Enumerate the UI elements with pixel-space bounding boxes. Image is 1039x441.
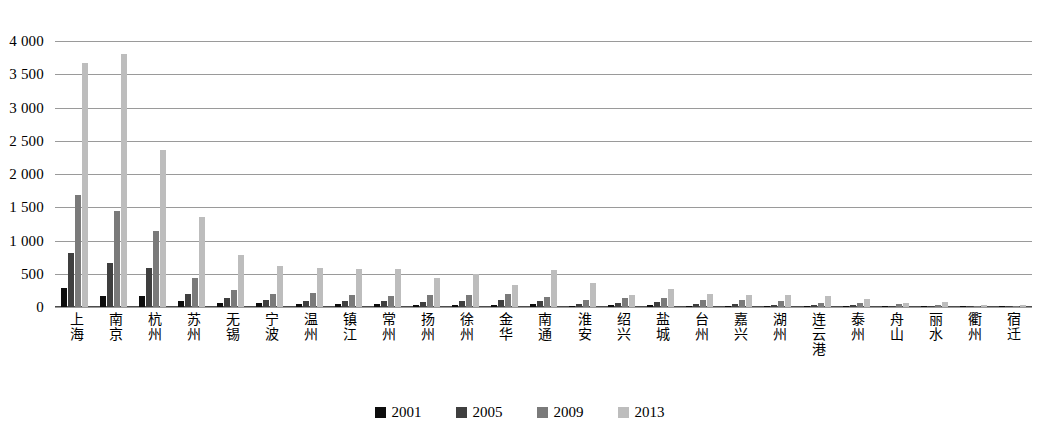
bar	[139, 296, 145, 307]
bar	[576, 304, 582, 307]
bar	[1013, 306, 1019, 307]
bar	[707, 294, 713, 307]
bar	[818, 303, 824, 307]
bar	[935, 305, 941, 307]
bar	[452, 305, 458, 307]
bar-group	[55, 41, 94, 307]
bar-group	[172, 41, 211, 307]
bar	[693, 304, 699, 307]
x-axis-labels: 上海南京杭州苏州无锡宁波温州镇江常州扬州徐州金华南通淮安绍兴盐城台州嘉兴湖州连云…	[55, 309, 1032, 395]
x-axis-tick: 宿迁	[993, 309, 1032, 395]
bar	[928, 306, 934, 307]
legend-item[interactable]: 2005	[456, 404, 503, 421]
bar	[199, 217, 205, 307]
y-axis-tick-label: 1 000	[9, 232, 44, 249]
y-axis-tick-label: 500	[21, 265, 44, 282]
x-axis-tick: 舟山	[876, 309, 915, 395]
x-axis-tick-label: 湖州	[771, 312, 785, 342]
bar	[725, 306, 731, 307]
bar	[75, 195, 81, 307]
legend-item[interactable]: 2013	[618, 404, 665, 421]
x-axis-tick: 盐城	[641, 309, 680, 395]
bar	[843, 306, 849, 307]
bar	[263, 300, 269, 307]
bar	[466, 295, 472, 307]
x-axis-tick: 常州	[368, 309, 407, 395]
bar	[420, 302, 426, 307]
gridline	[55, 307, 1032, 308]
y-axis-tick-label: 0	[36, 299, 44, 316]
bar	[622, 298, 628, 307]
x-axis-tick-label: 温州	[302, 312, 316, 342]
bar	[505, 294, 511, 307]
bar	[700, 300, 706, 307]
x-axis-tick-label: 台州	[693, 312, 707, 342]
bar	[746, 295, 752, 307]
bar	[661, 298, 667, 307]
bar	[647, 305, 653, 307]
bar	[771, 305, 777, 307]
bar-group	[250, 41, 289, 307]
bar	[100, 296, 106, 307]
x-axis-tick-label: 苏州	[185, 312, 199, 342]
x-axis-tick-label: 无锡	[224, 312, 238, 342]
chart-legend: 2001200520092013	[0, 404, 1039, 421]
bar	[217, 303, 223, 307]
x-axis-tick-label: 金华	[497, 312, 511, 342]
y-axis-tick-label: 2 500	[9, 132, 44, 149]
bar	[530, 304, 536, 307]
bar-group	[915, 41, 954, 307]
bar	[160, 150, 166, 307]
bar	[335, 304, 341, 307]
bar	[785, 295, 791, 307]
bar	[395, 269, 401, 307]
x-axis-tick: 嘉兴	[719, 309, 758, 395]
bar-group	[602, 41, 641, 307]
bar-group	[133, 41, 172, 307]
bar	[349, 295, 355, 307]
bar	[356, 269, 362, 307]
x-axis-tick-label: 徐州	[458, 312, 472, 342]
x-axis-tick-label: 镇江	[341, 312, 355, 342]
y-axis-tick-label: 1 500	[9, 199, 44, 216]
legend-item[interactable]: 2001	[375, 404, 422, 421]
x-axis-tick-label: 南通	[536, 312, 550, 342]
x-axis-tick: 镇江	[329, 309, 368, 395]
y-axis-tick-label: 3 500	[9, 66, 44, 83]
bar	[153, 231, 159, 307]
bar	[615, 303, 621, 307]
bar	[668, 289, 674, 307]
bar	[238, 255, 244, 307]
bar-group	[524, 41, 563, 307]
bar	[427, 295, 433, 307]
bar	[374, 304, 380, 307]
x-axis-tick-label: 宁波	[263, 312, 277, 342]
bar-group	[368, 41, 407, 307]
bar	[974, 306, 980, 307]
bar-group	[446, 41, 485, 307]
x-axis-tick-label: 淮安	[576, 312, 590, 342]
bar	[434, 278, 440, 307]
bar	[739, 300, 745, 307]
x-axis-tick: 徐州	[446, 309, 485, 395]
bar-group	[837, 41, 876, 307]
bar	[825, 296, 831, 307]
bar	[473, 274, 479, 307]
x-axis-tick: 无锡	[211, 309, 250, 395]
legend-item[interactable]: 2009	[537, 404, 584, 421]
bar-group	[758, 41, 797, 307]
bar	[583, 300, 589, 307]
x-axis-tick-label: 舟山	[888, 312, 902, 342]
bar-group	[954, 41, 993, 307]
legend-label: 2005	[473, 404, 503, 421]
bar	[178, 301, 184, 307]
bar	[569, 306, 575, 307]
bar	[61, 288, 67, 307]
x-axis-tick-label: 绍兴	[615, 312, 629, 342]
bar	[303, 301, 309, 307]
bar-group	[641, 41, 680, 307]
bar	[590, 283, 596, 307]
bar	[388, 296, 394, 307]
bar	[146, 268, 152, 307]
bar-group	[485, 41, 524, 307]
